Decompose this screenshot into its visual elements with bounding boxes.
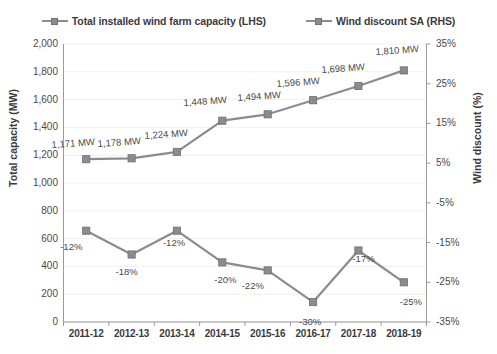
data-point-marker [219,117,226,124]
left-axis-tick-label: 200 [14,288,58,300]
data-point-marker [400,67,407,74]
left-axis-tick-label: 400 [14,260,58,272]
left-axis-tick-label: 1,800 [14,66,58,78]
discount-data-label: -17% [352,253,374,264]
right-axis-tick-label: 15% [436,117,476,129]
left-axis-tick-label: 800 [14,205,58,217]
discount-data-label: -12% [60,241,82,252]
data-point-marker [264,111,271,118]
data-point-marker [355,82,362,89]
right-axis-tick-label: 25% [436,78,476,90]
data-point-marker [310,299,317,306]
right-axis-tick-label: -25% [436,276,476,288]
left-axis-tick-label: 1,200 [14,149,58,161]
discount-data-label: -22% [242,280,264,291]
data-point-marker [83,227,90,234]
discount-data-label: -20% [214,274,236,285]
left-axis-tick-label: 600 [14,233,58,245]
wind-capacity-discount-chart: Total installed wind farm capacity (LHS)… [0,0,497,354]
left-axis-tick-label: 1,400 [14,121,58,133]
right-axis-tick-label: 35% [436,38,476,50]
left-axis-tick-label: 0 [14,316,58,328]
data-point-marker [400,279,407,286]
data-point-marker [128,251,135,258]
discount-data-label: -25% [400,296,422,307]
discount-data-label: -12% [163,237,185,248]
plot-area [0,0,497,354]
left-axis-tick-label: 1,000 [14,177,58,189]
left-axis-tick-label: 2,000 [14,38,58,50]
right-axis-tick-label: 5% [436,157,476,169]
data-point-marker [83,156,90,163]
right-axis-tick-label: -35% [436,316,476,328]
discount-data-label: -18% [116,266,138,277]
data-point-marker [310,97,317,104]
left-axis-tick-label: 1,600 [14,94,58,106]
data-point-marker [173,148,180,155]
data-point-marker [128,155,135,162]
data-point-marker [264,267,271,274]
data-point-marker [173,227,180,234]
discount-data-label: -30% [299,316,321,327]
x-axis-tick-label: 2018-19 [374,328,434,340]
right-axis-tick-label: -5% [436,197,476,209]
data-point-marker [219,259,226,266]
right-axis-tick-label: -15% [436,237,476,249]
